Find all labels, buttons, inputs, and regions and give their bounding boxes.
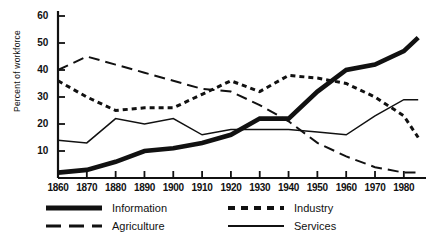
y-tick-20: 20	[22, 118, 48, 129]
line-information	[58, 38, 418, 173]
y-tick-50: 50	[22, 37, 48, 48]
legend-item-services: Services	[228, 220, 336, 232]
y-tick-40: 40	[22, 64, 48, 75]
legend-item-information: Information	[46, 202, 167, 214]
legend-label-agriculture: Agriculture	[112, 220, 165, 232]
legend-label-information: Information	[112, 202, 167, 214]
legend-label-industry: Industry	[294, 202, 333, 214]
y-tick-30: 30	[22, 91, 48, 102]
series-lines	[58, 38, 418, 173]
chart-legend: Information Agriculture Industry Service…	[0, 196, 436, 242]
legend-item-agriculture: Agriculture	[46, 220, 165, 232]
legend-label-services: Services	[294, 220, 336, 232]
y-tick-10: 10	[22, 145, 48, 156]
y-axis-label: Percent of workforce	[12, 5, 22, 137]
long-dash-swatch	[46, 220, 102, 232]
thick-solid-swatch	[46, 202, 102, 214]
line-agriculture	[58, 57, 418, 173]
legend-item-industry: Industry	[228, 202, 333, 214]
y-tick-60: 60	[22, 10, 48, 21]
thin-solid-swatch	[228, 220, 284, 232]
plot-area: Percent of workforce 102030405060 186018…	[0, 0, 436, 196]
line-services	[58, 100, 418, 143]
chart-figure: Percent of workforce 102030405060 186018…	[0, 0, 436, 242]
short-dash-swatch	[228, 202, 284, 214]
chart-svg	[0, 0, 436, 196]
x-tick-1980: 1980	[387, 182, 421, 193]
